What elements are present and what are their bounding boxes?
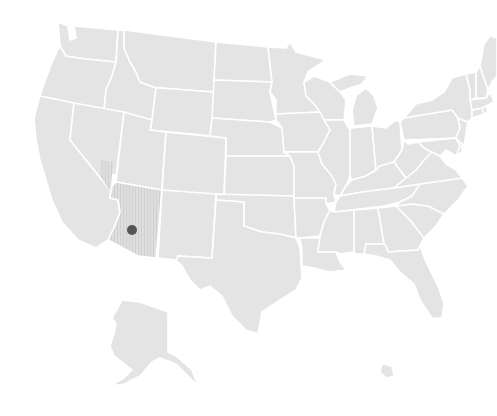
state-hawaii[interactable] [346,336,394,378]
us-map-svg [0,0,497,416]
us-map [0,0,497,416]
state-kansas[interactable] [224,156,294,196]
state-wyoming[interactable] [150,88,214,136]
state-north-dakota[interactable] [214,42,272,82]
state-new-mexico[interactable] [158,190,216,260]
state-south-dakota[interactable] [212,80,276,122]
state-alaska[interactable] [110,300,198,386]
location-marker[interactable] [127,225,137,235]
state-florida[interactable] [364,244,444,318]
state-colorado[interactable] [162,132,226,196]
